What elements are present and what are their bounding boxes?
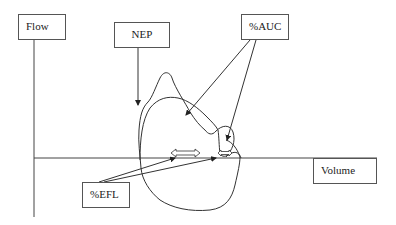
efl-pointer-2 [104, 158, 216, 182]
efl-label: %EFL [82, 182, 130, 208]
outer-loop [139, 73, 240, 211]
auc-label: %AUC [241, 14, 289, 40]
efl-arrow-2 [218, 150, 232, 156]
efl-pointer-1 [99, 158, 175, 182]
volume-axis-label: Volume [313, 158, 377, 184]
efl-arrow-1 [171, 149, 200, 157]
nep-label: NEP [114, 22, 170, 48]
diagram-canvas: Flow NEP %AUC Volume %EFL [0, 0, 396, 225]
inner-loop [140, 97, 241, 160]
flow-axis-label: Flow [18, 14, 66, 40]
auc-pointer-2 [227, 40, 256, 140]
auc-pointer-1 [186, 40, 250, 115]
